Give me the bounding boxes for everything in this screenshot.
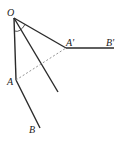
- segment-OA-prime: [14, 18, 66, 48]
- label-B-prime: B': [106, 37, 115, 48]
- label-A: A: [6, 76, 14, 87]
- angle-bisector: [14, 18, 58, 92]
- label-B: B: [29, 124, 35, 135]
- label-A-prime: A': [65, 37, 75, 48]
- label-O: O: [7, 7, 14, 18]
- segment-A-A-prime-dashed: [16, 48, 66, 80]
- geometry-diagram: O A' B' A B: [0, 0, 122, 147]
- segment-OA: [14, 18, 16, 80]
- segment-AB: [16, 80, 40, 128]
